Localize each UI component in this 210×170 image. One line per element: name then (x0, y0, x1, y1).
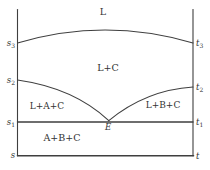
region-label-liquid: L (100, 7, 106, 17)
point-label-s2: s2 (0, 75, 15, 86)
liquidus-curve (18, 30, 194, 43)
region-label-liquid-b-c: L+B+C (146, 100, 181, 110)
point-label-t1-sub: 1 (199, 121, 203, 128)
point-label-t2: t2 (196, 82, 203, 93)
region-label-liquid-a-c: L+A+C (30, 101, 64, 111)
point-label-s3: s3 (0, 38, 15, 49)
point-label-t2-sub: 2 (199, 86, 203, 93)
point-label-eutectic: E (105, 122, 111, 132)
phase-diagram: L L+C L+A+C L+B+C A+B+C E s3 s2 s1 s t3 … (0, 0, 210, 170)
point-label-s2-sub: 2 (11, 79, 15, 86)
point-label-s: s (0, 150, 15, 160)
point-label-t-base: t (196, 151, 199, 161)
point-label-s3-sub: 3 (11, 42, 15, 49)
region-label-liquid-c: L+C (97, 63, 119, 73)
region-label-a-b-c: A+B+C (43, 133, 80, 143)
point-label-t3: t3 (196, 38, 203, 49)
point-label-s1-sub: 1 (11, 121, 15, 128)
diagram-canvas (0, 0, 210, 170)
point-label-s-base: s (11, 150, 15, 160)
point-label-t1: t1 (196, 117, 203, 128)
point-label-t3-sub: 3 (199, 42, 203, 49)
point-label-s1: s1 (0, 117, 15, 128)
point-label-t: t (196, 151, 199, 161)
